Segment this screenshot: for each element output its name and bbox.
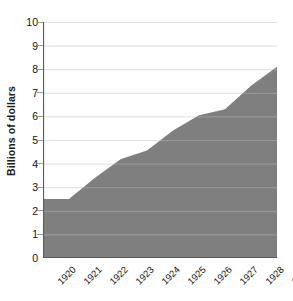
y-tick-label-9: 9 [8,41,38,51]
x-tick-label-1928: 1928 [263,264,286,287]
x-tick-label-1923: 1923 [133,264,156,287]
area-series-fill [43,67,277,258]
y-tick-label-0: 0 [8,253,38,263]
y-tick-label-2: 2 [8,206,38,216]
x-tick-label-1924: 1924 [159,264,182,287]
x-tick-label-1922: 1922 [107,264,130,287]
y-tick-label-7: 7 [8,88,38,98]
y-axis-tick-labels: 012345678910 [5,22,38,258]
area-chart-figure: Billions of dollars 012345678910 1920192… [0,0,293,301]
y-tick-label-1: 1 [8,229,38,239]
x-tick-label-1927: 1927 [237,264,260,287]
x-tick-label-1929: 1929 [289,264,293,287]
y-tick-label-3: 3 [8,182,38,192]
y-tick-label-8: 8 [8,64,38,74]
x-tick-label-1925: 1925 [185,264,208,287]
x-axis-tick-labels: 1920192119221923192419251926192719281929 [43,258,283,301]
x-tick-label-1921: 1921 [81,264,104,287]
y-tick-label-5: 5 [8,135,38,145]
y-tick-label-6: 6 [8,111,38,121]
y-tick-label-4: 4 [8,159,38,169]
x-tick-label-1920: 1920 [55,264,78,287]
plot-area [43,22,277,258]
x-tick-label-1926: 1926 [211,264,234,287]
y-tick-label-10: 10 [8,17,38,27]
plot-svg [43,22,277,258]
